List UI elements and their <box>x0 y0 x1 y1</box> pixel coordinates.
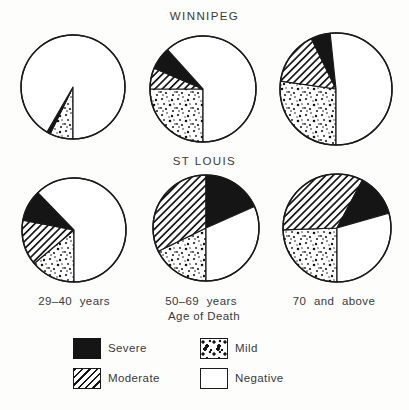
slice-mild <box>280 81 336 145</box>
slice-mild <box>283 228 337 282</box>
legend-label-mild: Mild <box>235 342 258 354</box>
legend-label-severe: Severe <box>108 342 147 354</box>
age-label-50-69: 50–69 years <box>165 295 237 307</box>
figure-canvas: WINNIPEG ST LOUIS 29–40 years 50–69 year… <box>0 0 409 410</box>
pie-stlouis-70-above <box>283 174 391 282</box>
legend-label-moderate: Moderate <box>108 372 160 384</box>
legend-swatch-severe <box>73 338 101 359</box>
city-title-winnipeg: WINNIPEG <box>0 10 409 22</box>
age-label-29-40: 29–40 years <box>38 295 110 307</box>
legend-swatch-moderate <box>73 368 101 389</box>
legend-swatch-mild <box>200 338 228 359</box>
slice-negative <box>330 33 392 145</box>
pie-winnipeg-29-40 <box>21 35 125 139</box>
pie-stlouis-29-40 <box>22 178 126 282</box>
age-label-70-above: 70 and above <box>293 295 376 307</box>
pie-stlouis-50-69 <box>153 175 259 281</box>
legend-label-negative: Negative <box>235 372 284 384</box>
pie-winnipeg-50-69 <box>150 36 256 142</box>
x-axis-title: Age of Death <box>168 310 240 322</box>
city-title-st-louis: ST LOUIS <box>0 155 409 167</box>
pie-winnipeg-70-above <box>280 33 392 145</box>
legend-swatch-negative <box>200 368 228 389</box>
